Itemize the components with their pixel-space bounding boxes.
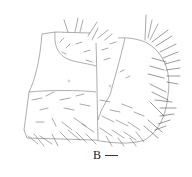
- panel-label: B: [93, 149, 101, 161]
- left-segment-outline: [24, 32, 96, 140]
- pore: [68, 80, 70, 82]
- scale-bar: [105, 155, 118, 156]
- setae: [28, 15, 180, 146]
- middle-divider: [96, 38, 145, 140]
- pore: [109, 85, 111, 87]
- right-lobe-outline: [95, 42, 169, 143]
